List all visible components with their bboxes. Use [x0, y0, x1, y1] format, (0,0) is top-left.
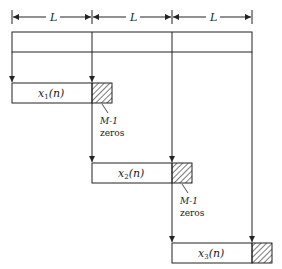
- dimension-label-1: L: [49, 11, 57, 24]
- zero-padding-hatch: [92, 83, 112, 103]
- dimension-label-3: L: [209, 11, 217, 24]
- block-label: x3(n): [198, 247, 224, 261]
- zeros-label: M-1: [99, 116, 118, 126]
- zeros-label: M-1: [179, 196, 198, 206]
- overlap-add-diagram: L L L x1(n) M-1 zeros x2(n) M-1 zeros: [0, 0, 282, 269]
- block-x1: x1(n) M-1 zeros: [12, 83, 125, 138]
- zero-padding-hatch: [252, 243, 272, 263]
- input-sequence-bar: [12, 32, 252, 52]
- dimension-label-2: L: [129, 11, 137, 24]
- block-label: x2(n): [118, 167, 144, 181]
- zero-padding-hatch: [172, 163, 192, 183]
- block-x3: x3(n): [172, 243, 272, 263]
- zeros-label-2: zeros: [180, 208, 205, 218]
- zeros-label-2: zeros: [100, 128, 125, 138]
- drop-arrows: [12, 52, 252, 242]
- block-x2: x2(n) M-1 zeros: [92, 163, 205, 218]
- block-label: x1(n): [38, 87, 64, 101]
